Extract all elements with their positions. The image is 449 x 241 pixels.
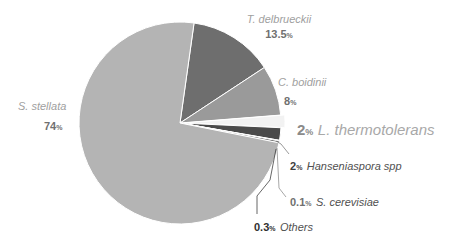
pie-chart: T. delbrueckii 13.5% C. boidinii 8% 2% L… <box>0 0 449 241</box>
leader-line-s-cerevisiae <box>277 148 286 197</box>
label-value: 74% <box>44 121 66 132</box>
label-name: S. cerevisiae <box>316 196 379 208</box>
label-value: 13.5% <box>244 29 314 40</box>
label-others: 0.3% Others <box>254 218 313 234</box>
label-s-cerevisiae: 0.1% S. cerevisiae <box>290 193 379 209</box>
pie-slices <box>79 22 285 224</box>
label-l-thermotolerans: 2% L. thermotolerans <box>297 122 435 138</box>
label-hanseniaspora: 2% Hanseniaspora spp <box>290 157 402 173</box>
label-name: T. delbrueckii <box>244 14 314 25</box>
label-value: 2% <box>290 160 302 172</box>
label-s-stellata: S. stellata 74% <box>18 101 66 132</box>
label-name: Others <box>280 221 313 233</box>
label-name: C. boidinii <box>278 77 326 88</box>
label-name: Hanseniaspora spp <box>307 160 402 172</box>
label-name: S. stellata <box>18 101 66 112</box>
label-c-boidinii: C. boidinii 8% <box>278 77 326 107</box>
label-value: 0.3% <box>254 221 276 233</box>
label-value: 0.1% <box>290 196 312 208</box>
label-value: 8% <box>284 96 326 107</box>
label-t-delbrueckii: T. delbrueckii 13.5% <box>244 14 314 40</box>
label-name: L. thermotolerans <box>318 121 435 138</box>
label-value: 2% <box>297 121 313 138</box>
